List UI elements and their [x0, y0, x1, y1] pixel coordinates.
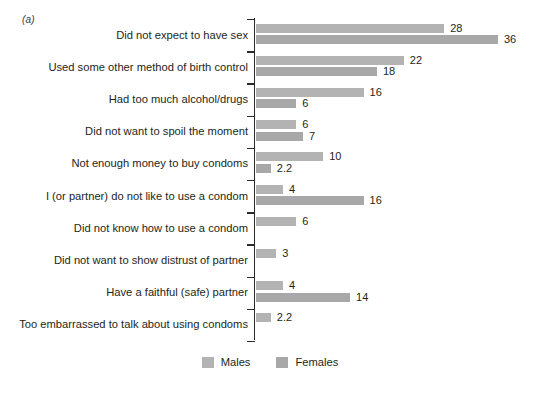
bar-value-label: 2.2 [277, 162, 292, 175]
bar-row: 3 [256, 249, 540, 258]
category-group: Did not know how to use a condom6 [0, 212, 540, 244]
bar-row: 22 [256, 56, 540, 65]
bar-chart-plot: Did not expect to have sex2836Used some … [0, 18, 540, 344]
category-group: I (or partner) do not like to use a cond… [0, 180, 540, 212]
legend-label: Females [295, 356, 338, 368]
category-label: Used some other method of birth control [10, 61, 248, 74]
bar-group: 2218 [256, 51, 540, 83]
chart-legend: MalesFemales [0, 356, 540, 368]
legend-swatch-males [202, 357, 214, 368]
bar-females [256, 35, 498, 44]
category-group: Did not want to spoil the moment67 [0, 116, 540, 148]
bar-females [256, 99, 296, 108]
bar-value-label: 7 [309, 130, 315, 143]
bar-row: 16 [256, 196, 540, 205]
bar-value-label: 3 [282, 247, 288, 260]
bar-value-label: 14 [356, 291, 368, 304]
bar-row: 6 [256, 217, 540, 226]
bar-row: 7 [256, 132, 540, 141]
bar-row: 10 [256, 152, 540, 161]
bar-row: 16 [256, 88, 540, 97]
category-group: Have a faithful (safe) partner414 [0, 277, 540, 309]
category-group: Not enough money to buy condoms102.2 [0, 148, 540, 180]
bar-row: 4 [256, 185, 540, 194]
legend-item-males[interactable]: Males [202, 356, 251, 368]
legend-label: Males [221, 356, 251, 368]
category-group: Did not expect to have sex2836 [0, 19, 540, 51]
category-label: Had too much alcohol/drugs [10, 93, 248, 106]
bar-value-label: 28 [450, 22, 462, 35]
bar-group: 3 [256, 244, 540, 276]
bar-females [256, 67, 377, 76]
bar-group: 2.2 [256, 309, 540, 341]
bar-row: 2.2 [256, 313, 540, 322]
category-label: Did not want to show distrust of partner [10, 254, 248, 267]
bar-row: 2.2 [256, 164, 540, 173]
bar-males [256, 185, 283, 194]
category-label: Did not know how to use a condom [10, 222, 248, 235]
category-label: Too embarrassed to talk about using cond… [10, 318, 248, 331]
figure-panel-a: (a) Did not expect to have sex2836Used s… [0, 0, 540, 399]
bar-row: 4 [256, 281, 540, 290]
bar-value-label: 6 [302, 97, 308, 110]
bar-row: 36 [256, 35, 540, 44]
bar-value-label: 16 [370, 86, 382, 99]
legend-swatch-females [276, 357, 288, 368]
bar-value-label: 10 [329, 150, 341, 163]
bar-group: 414 [256, 277, 540, 309]
category-group: Had too much alcohol/drugs166 [0, 83, 540, 115]
bar-males [256, 24, 444, 33]
bar-value-label: 6 [302, 118, 308, 131]
bar-females [256, 164, 271, 173]
bar-row: 6 [256, 120, 540, 129]
category-label: I (or partner) do not like to use a cond… [10, 190, 248, 203]
bar-value-label: 36 [504, 33, 516, 46]
bar-males [256, 120, 296, 129]
bar-group: 166 [256, 83, 540, 115]
category-label: Did not want to spoil the moment [10, 125, 248, 138]
category-label: Have a faithful (safe) partner [10, 286, 248, 299]
bar-females [256, 196, 364, 205]
bar-value-label: 22 [410, 54, 422, 67]
bar-males [256, 152, 323, 161]
bar-males [256, 281, 283, 290]
bar-row: 28 [256, 24, 540, 33]
category-label: Not enough money to buy condoms [10, 157, 248, 170]
bar-group: 67 [256, 116, 540, 148]
bar-value-label: 6 [302, 215, 308, 228]
bar-males [256, 249, 276, 258]
category-group: Did not want to show distrust of partner… [0, 244, 540, 276]
bar-row: 18 [256, 67, 540, 76]
bar-females [256, 293, 350, 302]
bar-group: 102.2 [256, 148, 540, 180]
bar-group: 2836 [256, 19, 540, 51]
bar-group: 6 [256, 212, 540, 244]
bar-females [256, 132, 303, 141]
category-group: Used some other method of birth control2… [0, 51, 540, 83]
bar-value-label: 16 [370, 194, 382, 207]
bar-males [256, 56, 404, 65]
bar-value-label: 4 [289, 183, 295, 196]
bar-value-label: 18 [383, 65, 395, 78]
legend-item-females[interactable]: Females [276, 356, 338, 368]
bar-males [256, 313, 271, 322]
bar-males [256, 88, 364, 97]
bar-row: 14 [256, 293, 540, 302]
category-group: Too embarrassed to talk about using cond… [0, 309, 540, 341]
bar-value-label: 2.2 [277, 311, 292, 324]
category-label: Did not expect to have sex [10, 29, 248, 42]
bar-row: 6 [256, 99, 540, 108]
bar-value-label: 4 [289, 279, 295, 292]
bar-group: 416 [256, 180, 540, 212]
axis-tick [247, 341, 255, 342]
bar-males [256, 217, 296, 226]
